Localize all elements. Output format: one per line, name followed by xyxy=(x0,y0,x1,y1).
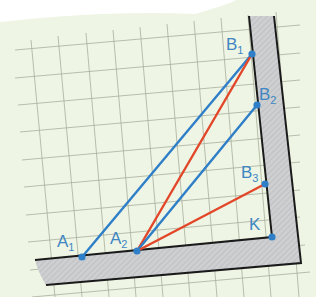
ladder-diagram: B1 B2 B3 K A1 A2 xyxy=(0,0,316,297)
point-a1 xyxy=(78,253,85,260)
point-k xyxy=(268,233,275,240)
diagram-canvas: B1 B2 B3 K A1 A2 xyxy=(0,0,316,297)
label-k: K xyxy=(249,215,261,234)
point-b1 xyxy=(248,50,255,57)
point-a2 xyxy=(133,247,140,254)
point-b3 xyxy=(261,180,268,187)
